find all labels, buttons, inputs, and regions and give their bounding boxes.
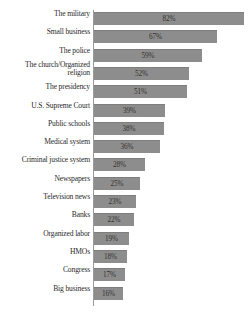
bar-container: 28% [94, 158, 145, 171]
bar[interactable]: 23% [94, 195, 136, 208]
bar-row: Congress17% [0, 266, 248, 284]
bar-container: 18% [94, 250, 127, 263]
bar-value-label: 25% [94, 180, 140, 189]
bar-value-label: 51% [94, 88, 187, 97]
bar-row: Big business16% [0, 285, 248, 303]
category-label: U.S. Supreme Court [2, 102, 90, 111]
horizontal-bar-chart: The military82%Small business67%The poli… [0, 0, 248, 316]
bar-row: HMOs18% [0, 248, 248, 266]
bar-value-label: 82% [94, 15, 244, 24]
bar-container: 59% [94, 49, 202, 62]
bar-container: 51% [94, 85, 187, 98]
bar-row: The military82% [0, 10, 248, 28]
bar-value-label: 36% [94, 143, 160, 152]
plot-area: The military82%Small business67%The poli… [0, 0, 248, 316]
bar-row: Organized labor19% [0, 230, 248, 248]
bar-container: 38% [94, 122, 164, 135]
bar-container: 36% [94, 140, 160, 153]
category-label: The military [2, 10, 90, 19]
bar[interactable]: 28% [94, 158, 145, 171]
bar[interactable]: 52% [94, 67, 189, 80]
bar-value-label: 38% [94, 125, 164, 134]
bar-row: The church/Organized religion52% [0, 65, 248, 83]
bar-value-label: 16% [94, 290, 123, 299]
category-label: Small business [2, 28, 90, 37]
bar[interactable]: 36% [94, 140, 160, 153]
category-label: Medical system [2, 138, 90, 147]
category-label: Big business [2, 285, 90, 294]
bar-container: 19% [94, 232, 129, 245]
category-label: Banks [2, 211, 90, 220]
category-label: The church/Organized religion [2, 61, 90, 78]
category-label: Public schools [2, 120, 90, 129]
bar-value-label: 28% [94, 161, 145, 170]
bar-container: 52% [94, 67, 189, 80]
category-label: Newspapers [2, 175, 90, 184]
bar[interactable]: 19% [94, 232, 129, 245]
bar-container: 82% [94, 12, 244, 25]
bar-container: 16% [94, 287, 123, 300]
bar-value-label: 18% [94, 253, 127, 262]
bar-value-label: 52% [94, 70, 189, 79]
bar-value-label: 19% [94, 235, 129, 244]
bar[interactable]: 17% [94, 268, 125, 281]
bar-value-label: 23% [94, 198, 136, 207]
bar-container: 25% [94, 177, 140, 190]
bar-row: Television news23% [0, 193, 248, 211]
bar-value-label: 67% [94, 33, 217, 42]
category-label: Congress [2, 266, 90, 275]
category-label: HMOs [2, 248, 90, 257]
bar[interactable]: 16% [94, 287, 123, 300]
bar-value-label: 17% [94, 271, 125, 280]
bar[interactable]: 39% [94, 104, 165, 117]
category-label: Organized labor [2, 230, 90, 239]
category-label: Television news [2, 193, 90, 202]
bar-container: 67% [94, 30, 217, 43]
bar-row: Small business67% [0, 28, 248, 46]
bar[interactable]: 22% [94, 213, 134, 226]
bar-row: Medical system36% [0, 138, 248, 156]
bar-container: 23% [94, 195, 136, 208]
bar-row: Newspapers25% [0, 175, 248, 193]
bar[interactable]: 38% [94, 122, 164, 135]
bar-value-label: 39% [94, 107, 165, 116]
category-label: The police [2, 47, 90, 56]
bar[interactable]: 82% [94, 12, 244, 25]
bar-row: U.S. Supreme Court39% [0, 102, 248, 120]
bar-container: 39% [94, 104, 165, 117]
bar[interactable]: 59% [94, 49, 202, 62]
bar-container: 22% [94, 213, 134, 226]
bar-value-label: 22% [94, 216, 134, 225]
bar-container: 17% [94, 268, 125, 281]
category-label: Criminal justice system [2, 156, 90, 165]
bar[interactable]: 51% [94, 85, 187, 98]
bar-row: Banks22% [0, 211, 248, 229]
bar-value-label: 59% [94, 52, 202, 61]
bar[interactable]: 67% [94, 30, 217, 43]
bar[interactable]: 25% [94, 177, 140, 190]
bar-row: Criminal justice system28% [0, 156, 248, 174]
category-label: The presidency [2, 83, 90, 92]
bar-row: Public schools38% [0, 120, 248, 138]
bar-row: The presidency51% [0, 83, 248, 101]
bar[interactable]: 18% [94, 250, 127, 263]
